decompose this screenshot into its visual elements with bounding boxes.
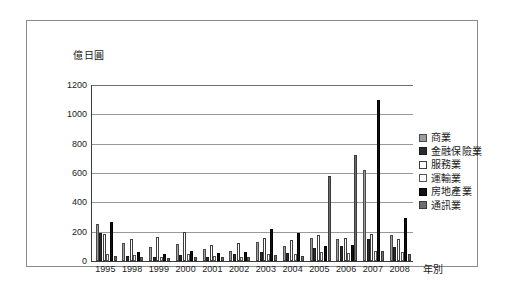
legend-item-label: 運輸業 [431,173,462,184]
x-axis-tick-label: 2002 [229,264,249,275]
bar [176,244,179,261]
bar [377,100,380,261]
legend-swatch-icon [419,174,427,182]
legend-swatch-icon [419,201,427,209]
bar [401,252,404,261]
x-axis-tick-label: 1995 [95,264,115,275]
bar [137,252,140,261]
x-axis-tick-label: 2001 [202,264,222,275]
bar-group [122,85,144,261]
bar [317,235,320,261]
bar-group [256,85,278,261]
x-axis-tick-label: 2007 [363,264,383,275]
bar-group [283,85,305,261]
bar [274,255,277,261]
y-axis-tick-label: 200 [72,227,87,236]
bar [301,256,304,261]
bar [347,253,350,261]
bar [221,257,224,261]
legend-item-label: 房地產業 [431,186,472,197]
bar [114,256,117,261]
legend-item: 房地產業 [419,185,499,199]
bar [167,258,170,261]
legend-item: 商業 [419,131,499,145]
bar [160,257,163,261]
bar [233,254,236,261]
bar [229,251,232,261]
bar [217,253,220,261]
bar [263,238,266,261]
bar [397,239,400,261]
y-axis-tick-label: 400 [72,198,87,207]
bar [244,252,247,261]
bar [179,255,182,261]
bar-group [310,85,332,261]
bar [363,170,366,261]
bar [187,254,190,261]
x-axis-tick-label: 2004 [283,264,303,275]
bar [194,257,197,261]
bar-group [336,85,358,261]
bar [247,257,250,261]
x-axis-tick-label: 2008 [390,264,410,275]
bar-group [203,85,225,261]
legend-item: 金融保險業 [419,145,499,159]
chart-legend: 商業金融保險業服務業運輸業房地產業通訊業 [419,131,499,212]
legend-item-label: 通訊業 [431,200,462,211]
bar [140,257,143,261]
bar [190,251,193,261]
y-axis-tick-label: 600 [72,169,87,178]
bar [267,254,270,261]
bar [126,256,129,261]
x-axis-tick-label: 2005 [309,264,329,275]
bar [290,240,293,261]
bar-groups [92,85,413,261]
x-axis-tick-label: 1999 [149,264,169,275]
bar [294,254,297,261]
bar [110,222,113,261]
bar [381,251,384,261]
legend-item: 服務業 [419,158,499,172]
y-axis-tick-label: 800 [72,139,87,148]
x-axis-tick-label: 1998 [122,264,142,275]
x-axis-tick-labels: 1995199819992000200120022003200420052006… [91,264,412,278]
bar [324,246,327,261]
bar [270,229,273,261]
legend-item: 通訊業 [419,199,499,213]
bar-group [96,85,118,261]
bar [203,249,206,261]
bar [96,224,99,261]
legend-swatch-icon [419,188,427,196]
bar [133,255,136,261]
legend-item-label: 服務業 [431,159,462,170]
bar [183,232,186,261]
y-axis-unit-label: 億日圓 [73,50,105,62]
bar [408,254,411,261]
bar [156,237,159,261]
bar [210,245,213,261]
chart-frame: 億日圓 020040060080010001200 19951998199920… [26,20,478,267]
bar-group [390,85,412,261]
y-axis-tick-label: 0 [82,257,87,266]
legend-item-label: 商業 [431,132,451,143]
legend-swatch-icon [419,134,427,142]
bar [99,233,102,261]
legend-swatch-icon [419,147,427,155]
bar [351,245,354,261]
bar [390,235,393,261]
bar-group [149,85,171,261]
legend-item: 運輸業 [419,172,499,186]
bar [320,252,323,261]
bar-group [229,85,251,261]
legend-item-label: 金融保險業 [431,146,482,157]
bar [283,246,286,261]
bar [344,238,347,261]
plot-area: 020040060080010001200 [91,85,413,262]
bar [374,251,377,261]
bar-group [363,85,385,261]
bar [213,256,216,261]
bar [354,155,357,261]
y-axis-tick-label: 1000 [67,110,87,119]
y-axis-tick-label: 1200 [67,81,87,90]
bar [340,246,343,261]
